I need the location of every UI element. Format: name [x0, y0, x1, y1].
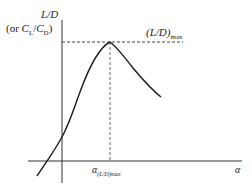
x-axis-label: α — [235, 164, 240, 175]
max-alpha-annotation: α(L/D)max — [92, 164, 121, 177]
y-label-suffix: ) — [49, 22, 53, 34]
max-ld-label: (L/D) — [146, 26, 170, 38]
lift-to-drag-chart: L/D (or CL/CD) (L/D)max α(L/D)max α — [0, 0, 252, 193]
y-label-cd: C — [36, 22, 43, 34]
ld-curve — [37, 42, 161, 176]
y-label-prefix: (or — [6, 22, 22, 34]
max-ld-label-sub: max — [170, 33, 182, 41]
max-alpha-sub: (L/D)max — [97, 171, 120, 177]
max-ld-annotation: (L/D)max — [146, 26, 183, 41]
y-label-cl: C — [22, 22, 29, 34]
y-axis-label-line2: (or CL/CD) — [6, 22, 52, 37]
y-axis-label-line1: L/D — [41, 8, 58, 20]
